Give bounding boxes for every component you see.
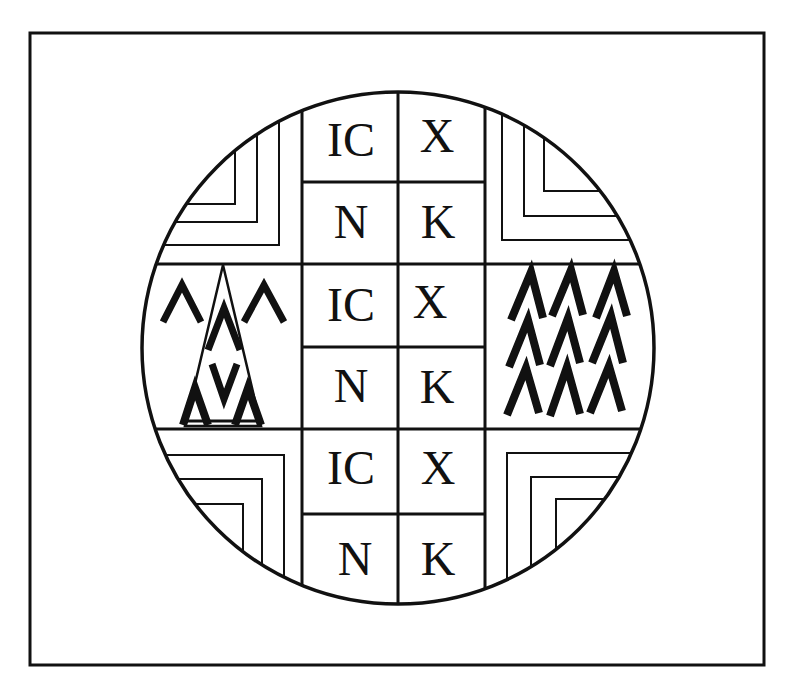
cell-letter-right: X [421, 441, 456, 494]
cell-letter-left: N [334, 359, 369, 412]
quadrant-top-right-pattern [502, 90, 700, 240]
figure: IC X N K IC X N K IC X N K [0, 0, 793, 696]
left-panel-chevron-pattern [163, 265, 284, 426]
cell-letter-right: X [413, 275, 448, 328]
cell-letter-right: K [421, 195, 456, 248]
right-panel-chevron-grid [507, 270, 627, 416]
quadrant-bottom-left-pattern [100, 455, 284, 620]
cell-letter-left: N [338, 532, 373, 585]
cell-letter-right: K [421, 532, 456, 585]
quadrant-bottom-right-pattern [507, 453, 700, 620]
cell-letter-left: IC [327, 441, 375, 494]
cell-letter-right: X [420, 109, 455, 162]
cell-letter-left: IC [327, 113, 375, 166]
quadrant-top-left-pattern [100, 90, 279, 245]
cell-letter-left: N [334, 195, 369, 248]
cell-letter-left: IC [327, 278, 375, 331]
cell-letter-right: K [420, 360, 455, 413]
